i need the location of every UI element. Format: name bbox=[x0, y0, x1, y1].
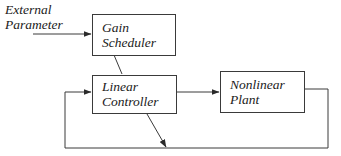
linear-controller-line1: Linear bbox=[102, 79, 159, 94]
external-parameter-line2: Parameter bbox=[5, 17, 63, 32]
nonlinear-plant-label: Nonlinear Plant bbox=[230, 77, 285, 107]
nonlinear-plant-line1: Nonlinear bbox=[230, 77, 285, 92]
nonlinear-plant-line2: Plant bbox=[230, 92, 285, 107]
external-parameter-line1: External bbox=[5, 2, 63, 17]
linear-controller-line2: Controller bbox=[102, 94, 159, 109]
gain-scheduler-line2: Scheduler bbox=[102, 35, 156, 50]
gain-scheduler-line1: Gain bbox=[102, 20, 156, 35]
scheduler-to-controller-line bbox=[114, 55, 122, 74]
external-parameter-label: External Parameter bbox=[5, 2, 63, 32]
linear-controller-label: Linear Controller bbox=[102, 79, 159, 109]
adaptation-arrow bbox=[147, 114, 166, 147]
gain-scheduler-label: Gain Scheduler bbox=[102, 20, 156, 50]
